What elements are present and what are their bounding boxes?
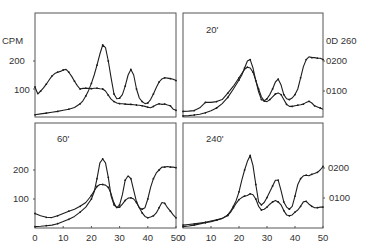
data-point-marker xyxy=(130,197,132,199)
left-axis-label-cpm: CPM xyxy=(2,35,23,46)
panel-frame-bottom-right xyxy=(183,123,323,228)
data-point-marker xyxy=(79,211,81,213)
right-tick-0100-top: 0100 xyxy=(326,85,347,96)
data-point-marker xyxy=(124,103,126,105)
right-tick-0100-bottom: 0100 xyxy=(329,192,350,203)
data-point-marker xyxy=(91,83,93,85)
data-point-marker xyxy=(193,224,195,226)
x-tick-label: 30 xyxy=(114,232,125,243)
data-point-marker xyxy=(289,208,291,210)
data-point-marker xyxy=(51,75,53,77)
data-point-marker xyxy=(124,85,126,87)
data-point-marker xyxy=(102,88,104,90)
x-axis-ticks-bottom-left: 01020304050 xyxy=(32,226,181,243)
data-point-marker xyxy=(244,195,246,197)
data-point-marker xyxy=(277,179,279,181)
data-point-marker xyxy=(96,178,98,180)
data-point-marker xyxy=(280,94,282,96)
left-tick-200-bottom: 200 xyxy=(13,164,29,175)
data-point-marker xyxy=(261,99,263,101)
data-point-marker xyxy=(322,166,324,168)
left-tick-100-bottom: 100 xyxy=(13,193,29,204)
data-point-marker xyxy=(182,111,184,113)
data-point-marker xyxy=(68,210,70,212)
data-point-marker xyxy=(68,108,70,110)
data-point-marker xyxy=(227,97,229,99)
data-point-marker xyxy=(277,78,279,80)
data-point-marker xyxy=(233,205,235,207)
data-point-marker xyxy=(175,217,177,219)
data-point-marker xyxy=(317,57,319,59)
data-point-marker xyxy=(294,94,296,96)
x-tick-label: 10 xyxy=(206,232,217,243)
data-point-marker xyxy=(119,206,121,208)
panel-label-60min: 60' xyxy=(57,133,70,144)
data-point-marker xyxy=(74,80,76,82)
right-tick-0200-top: 0200 xyxy=(326,55,347,66)
data-point-marker xyxy=(130,69,132,71)
data-point-marker xyxy=(300,178,302,180)
data-point-marker xyxy=(147,106,149,108)
data-point-marker xyxy=(158,103,160,105)
data-point-marker xyxy=(119,97,121,99)
data-point-marker xyxy=(68,71,70,73)
data-point-marker xyxy=(289,99,291,101)
panel-label-20min: 20' xyxy=(206,24,219,35)
data-point-marker xyxy=(34,226,36,228)
data-point-marker xyxy=(249,155,251,157)
data-point-marker xyxy=(85,87,87,89)
data-point-marker xyxy=(107,60,109,62)
data-point-marker xyxy=(269,99,271,101)
data-point-marker xyxy=(277,201,279,203)
data-point-marker xyxy=(272,88,274,90)
data-point-marker xyxy=(175,109,177,111)
data-point-marker xyxy=(311,173,313,175)
panel-frame-top-left xyxy=(35,13,176,117)
data-point-marker xyxy=(255,198,257,200)
data-point-marker xyxy=(113,101,115,103)
data-point-marker xyxy=(311,57,313,59)
data-point-marker xyxy=(96,64,98,66)
data-point-marker xyxy=(45,112,47,114)
data-point-marker xyxy=(170,78,172,80)
data-point-marker xyxy=(175,80,177,82)
data-point-marker xyxy=(311,205,313,207)
data-point-marker xyxy=(297,104,299,106)
data-point-marker xyxy=(79,88,81,90)
data-point-marker xyxy=(136,201,138,203)
data-point-marker xyxy=(57,223,59,225)
data-point-marker xyxy=(294,195,296,197)
od260-curve-top-right xyxy=(183,57,323,116)
data-point-marker xyxy=(193,110,195,112)
data-point-marker xyxy=(57,71,59,73)
data-point-marker xyxy=(238,199,240,201)
data-point-marker xyxy=(317,171,319,173)
data-point-marker xyxy=(45,216,47,218)
data-point-marker xyxy=(283,201,285,203)
data-point-marker xyxy=(283,94,285,96)
data-point-marker xyxy=(124,200,126,202)
x-tick-label: 0 xyxy=(32,232,37,243)
data-point-marker xyxy=(314,105,316,107)
x-axis-ticks-bottom-right: 01020304050 xyxy=(180,226,328,243)
data-point-marker xyxy=(164,77,166,79)
data-point-marker xyxy=(216,107,218,109)
data-point-marker xyxy=(261,209,263,211)
x-tick-label: 0 xyxy=(180,232,185,243)
right-axis-label-od260: 0D 260 xyxy=(326,35,357,46)
data-point-marker xyxy=(130,178,132,180)
data-point-marker xyxy=(107,176,109,178)
data-point-marker xyxy=(255,184,257,186)
data-point-marker xyxy=(216,101,218,103)
data-point-marker xyxy=(227,214,229,216)
data-point-marker xyxy=(153,106,155,108)
od260-curve-bottom-right xyxy=(183,156,323,227)
data-point-marker xyxy=(205,112,207,114)
data-point-marker xyxy=(141,101,143,103)
data-point-marker xyxy=(141,212,143,214)
data-point-marker xyxy=(319,107,321,109)
data-point-marker xyxy=(158,169,160,171)
data-point-marker xyxy=(317,207,319,209)
data-point-marker xyxy=(40,90,42,92)
data-point-marker xyxy=(141,105,143,107)
